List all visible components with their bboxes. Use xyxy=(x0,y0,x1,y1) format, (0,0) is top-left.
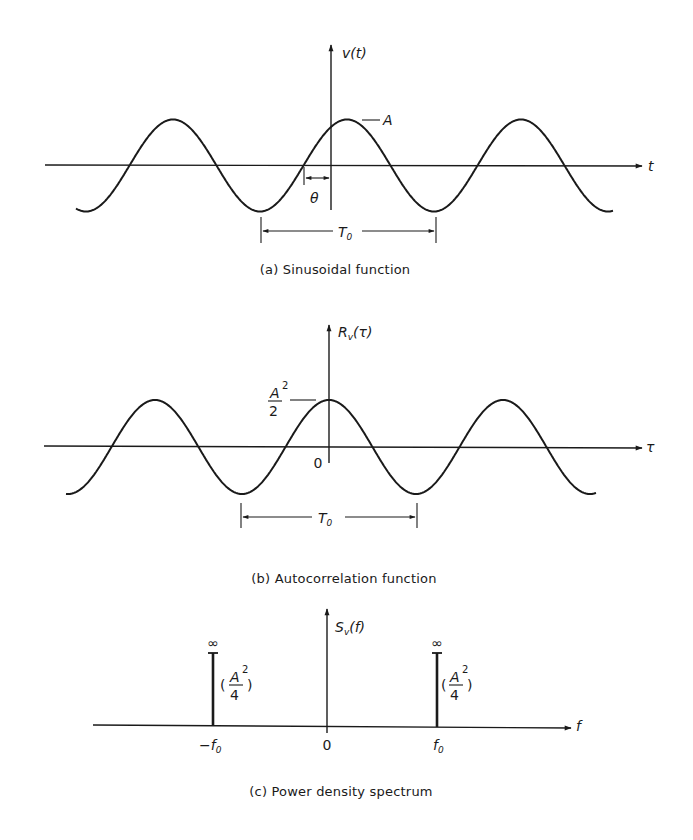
panel-a-sinusoidal: v(t) t A θ T0 (a) Sinusoidal function xyxy=(45,45,654,277)
panel-c-x-axis xyxy=(93,725,571,728)
svg-text:2: 2 xyxy=(282,380,288,391)
panel-a-caption: (a) Sinusoidal function xyxy=(260,262,411,277)
svg-text:4: 4 xyxy=(230,687,239,703)
svg-text:2: 2 xyxy=(242,664,248,675)
panel-c-infinity-pos: ∞ xyxy=(431,635,443,651)
svg-text:A: A xyxy=(229,669,240,685)
panel-c-tick-origin: 0 xyxy=(323,737,332,753)
panel-a-x-axis-label: t xyxy=(648,158,654,174)
panel-b-y-axis-label: Rv(τ) xyxy=(338,324,372,342)
panel-a-x-axis xyxy=(45,165,642,166)
panel-c-tick-pos-f0: f0 xyxy=(433,737,444,755)
panel-a-phase-label: θ xyxy=(310,190,319,206)
panel-b-x-axis-label: τ xyxy=(646,439,655,455)
svg-text:A: A xyxy=(269,385,280,401)
panel-c-x-axis-label: f xyxy=(576,718,583,734)
panel-c-weight-neg: ( A 2 4 ) xyxy=(220,664,252,703)
panel-b-autocorrelation: Rv(τ) τ 0 A 2 2 T0 (b) Autocorrelation f… xyxy=(44,324,655,586)
svg-text:(: ( xyxy=(220,677,225,693)
panel-c-impulse-pos: ∞ ( A 2 4 ) xyxy=(431,635,472,727)
svg-text:): ) xyxy=(467,677,472,693)
panel-b-period-label: T0 xyxy=(318,510,333,528)
panel-a-amplitude-label: A xyxy=(382,112,393,128)
svg-text:(: ( xyxy=(441,677,446,693)
panel-a-y-axis-label: v(t) xyxy=(342,45,367,61)
panel-b-caption: (b) Autocorrelation function xyxy=(251,571,436,586)
panel-c-impulse-neg: ∞ ( A 2 4 ) xyxy=(207,635,252,726)
svg-text:A: A xyxy=(449,669,460,685)
panel-c-caption: (c) Power density spectrum xyxy=(249,784,432,799)
panel-c-tick-neg-f0: −f0 xyxy=(199,737,222,755)
panel-b-origin-label: 0 xyxy=(314,455,323,471)
svg-text:): ) xyxy=(247,677,252,693)
figure: v(t) t A θ T0 (a) Sinusoidal function Rv… xyxy=(0,0,693,840)
panel-c-weight-pos: ( A 2 4 ) xyxy=(441,664,472,703)
panel-b-x-axis xyxy=(44,446,642,448)
svg-text:4: 4 xyxy=(450,687,459,703)
panel-c-y-axis-label: Sv(f) xyxy=(335,619,365,637)
svg-text:2: 2 xyxy=(462,664,468,675)
panel-c-infinity-neg: ∞ xyxy=(207,635,219,651)
svg-text:2: 2 xyxy=(269,403,278,419)
panel-a-period-label: T0 xyxy=(338,224,353,242)
panel-c-power-spectrum: Sv(f) f ∞ ( A 2 4 ) ∞ ( A 2 xyxy=(93,609,583,799)
